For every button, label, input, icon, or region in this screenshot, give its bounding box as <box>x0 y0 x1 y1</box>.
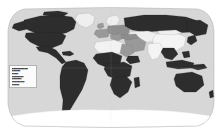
world-choropleth-figure: ███████████████ ████████ ██████ ████████… <box>0 0 222 138</box>
region-madagascar <box>134 77 140 88</box>
map-legend[interactable]: ███████████████ ████████ ██████ ████████… <box>9 65 37 88</box>
legend-row-2: ██████ <box>12 73 35 75</box>
legend-row-6: ███████ <box>12 84 35 86</box>
